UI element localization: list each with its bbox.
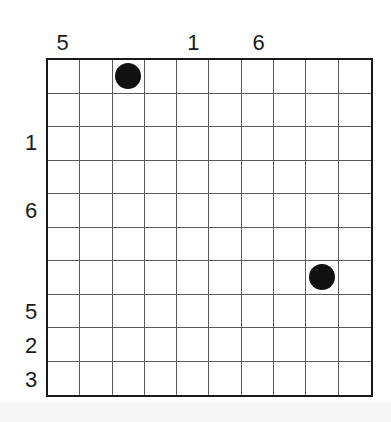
grid-cell-r8-c2[interactable] — [113, 328, 145, 362]
grid-cell-r3-c1[interactable] — [80, 161, 112, 195]
grid-cell-r5-c6[interactable] — [242, 228, 274, 262]
grid-cell-r6-c9[interactable] — [339, 261, 371, 295]
grid-cell-r4-c0[interactable] — [48, 194, 80, 228]
grid-cell-r1-c2[interactable] — [113, 94, 145, 128]
grid-cell-r3-c5[interactable] — [209, 161, 241, 195]
grid-cell-r1-c7[interactable] — [274, 94, 306, 128]
grid-cell-r9-c6[interactable] — [242, 362, 274, 396]
grid-cell-r6-c5[interactable] — [209, 261, 241, 295]
grid-cell-r1-c0[interactable] — [48, 94, 80, 128]
grid-cell-r0-c3[interactable] — [145, 60, 177, 94]
grid-cell-r9-c1[interactable] — [80, 362, 112, 396]
grid-cell-r0-c0[interactable] — [48, 60, 80, 94]
grid-cell-r3-c0[interactable] — [48, 161, 80, 195]
grid-cell-r5-c7[interactable] — [274, 228, 306, 262]
grid-cell-r7-c9[interactable] — [339, 295, 371, 329]
grid-cell-r1-c1[interactable] — [80, 94, 112, 128]
grid-cell-r2-c2[interactable] — [113, 127, 145, 161]
grid-cell-r1-c4[interactable] — [177, 94, 209, 128]
grid-cell-r5-c4[interactable] — [177, 228, 209, 262]
grid-cell-r6-c7[interactable] — [274, 261, 306, 295]
grid-cell-r0-c2[interactable] — [113, 60, 145, 94]
grid-cell-r5-c0[interactable] — [48, 228, 80, 262]
grid-cell-r2-c1[interactable] — [80, 127, 112, 161]
grid-cell-r5-c1[interactable] — [80, 228, 112, 262]
grid-cell-r2-c0[interactable] — [48, 127, 80, 161]
grid-cell-r9-c9[interactable] — [339, 362, 371, 396]
grid-cell-r9-c5[interactable] — [209, 362, 241, 396]
grid-cell-r1-c5[interactable] — [209, 94, 241, 128]
grid-cell-r3-c3[interactable] — [145, 161, 177, 195]
grid-cell-r8-c8[interactable] — [306, 328, 338, 362]
grid-cell-r0-c8[interactable] — [306, 60, 338, 94]
grid-cell-r6-c6[interactable] — [242, 261, 274, 295]
grid-cell-r3-c8[interactable] — [306, 161, 338, 195]
grid-cell-r2-c9[interactable] — [339, 127, 371, 161]
grid-cell-r4-c3[interactable] — [145, 194, 177, 228]
grid-cell-r0-c4[interactable] — [177, 60, 209, 94]
grid-cell-r3-c7[interactable] — [274, 161, 306, 195]
grid-cell-r2-c6[interactable] — [242, 127, 274, 161]
grid-cell-r8-c9[interactable] — [339, 328, 371, 362]
grid-cell-r6-c1[interactable] — [80, 261, 112, 295]
grid-cell-r8-c5[interactable] — [209, 328, 241, 362]
grid-cell-r6-c2[interactable] — [113, 261, 145, 295]
grid-cell-r1-c6[interactable] — [242, 94, 274, 128]
grid-cell-r9-c0[interactable] — [48, 362, 80, 396]
grid-cell-r9-c7[interactable] — [274, 362, 306, 396]
grid-cell-r5-c8[interactable] — [306, 228, 338, 262]
grid-cell-r4-c6[interactable] — [242, 194, 274, 228]
grid-cell-r7-c3[interactable] — [145, 295, 177, 329]
grid-cell-r0-c6[interactable] — [242, 60, 274, 94]
grid-cell-r3-c2[interactable] — [113, 161, 145, 195]
grid-cell-r2-c3[interactable] — [145, 127, 177, 161]
grid-cell-r7-c0[interactable] — [48, 295, 80, 329]
grid-cell-r0-c1[interactable] — [80, 60, 112, 94]
grid-cell-r7-c5[interactable] — [209, 295, 241, 329]
grid-cell-r2-c5[interactable] — [209, 127, 241, 161]
grid-cell-r2-c4[interactable] — [177, 127, 209, 161]
grid-cell-r1-c8[interactable] — [306, 94, 338, 128]
grid-cell-r0-c9[interactable] — [339, 60, 371, 94]
grid-cell-r7-c2[interactable] — [113, 295, 145, 329]
grid-cell-r7-c6[interactable] — [242, 295, 274, 329]
grid-cell-r8-c3[interactable] — [145, 328, 177, 362]
grid-cell-r9-c8[interactable] — [306, 362, 338, 396]
grid-cell-r4-c5[interactable] — [209, 194, 241, 228]
grid-cell-r0-c5[interactable] — [209, 60, 241, 94]
grid-cell-r7-c7[interactable] — [274, 295, 306, 329]
grid-cell-r7-c4[interactable] — [177, 295, 209, 329]
grid-cell-r3-c4[interactable] — [177, 161, 209, 195]
grid-cell-r4-c8[interactable] — [306, 194, 338, 228]
grid-cell-r6-c0[interactable] — [48, 261, 80, 295]
grid-cell-r2-c8[interactable] — [306, 127, 338, 161]
grid-cell-r6-c4[interactable] — [177, 261, 209, 295]
grid-cell-r8-c7[interactable] — [274, 328, 306, 362]
grid-cell-r4-c4[interactable] — [177, 194, 209, 228]
grid-cell-r0-c7[interactable] — [274, 60, 306, 94]
grid-cell-r5-c3[interactable] — [145, 228, 177, 262]
grid-cell-r3-c9[interactable] — [339, 161, 371, 195]
grid-cell-r4-c1[interactable] — [80, 194, 112, 228]
grid-cell-r6-c8[interactable] — [306, 261, 338, 295]
grid-cell-r7-c1[interactable] — [80, 295, 112, 329]
grid-cell-r4-c7[interactable] — [274, 194, 306, 228]
grid-cell-r2-c7[interactable] — [274, 127, 306, 161]
grid-cell-r4-c9[interactable] — [339, 194, 371, 228]
grid-cell-r4-c2[interactable] — [113, 194, 145, 228]
grid-cell-r9-c2[interactable] — [113, 362, 145, 396]
grid-cell-r5-c2[interactable] — [113, 228, 145, 262]
grid-cell-r8-c0[interactable] — [48, 328, 80, 362]
grid-cell-r9-c3[interactable] — [145, 362, 177, 396]
grid-cell-r3-c6[interactable] — [242, 161, 274, 195]
grid-cell-r8-c6[interactable] — [242, 328, 274, 362]
grid-cell-r1-c9[interactable] — [339, 94, 371, 128]
grid-cell-r5-c5[interactable] — [209, 228, 241, 262]
grid-cell-r5-c9[interactable] — [339, 228, 371, 262]
grid-cell-r6-c3[interactable] — [145, 261, 177, 295]
grid-cell-r7-c8[interactable] — [306, 295, 338, 329]
grid-cell-r9-c4[interactable] — [177, 362, 209, 396]
grid-cell-r1-c3[interactable] — [145, 94, 177, 128]
grid-cell-r8-c4[interactable] — [177, 328, 209, 362]
grid-cell-r8-c1[interactable] — [80, 328, 112, 362]
